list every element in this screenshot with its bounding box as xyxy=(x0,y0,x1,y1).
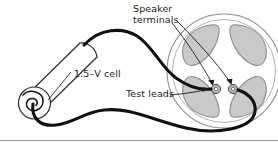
test-leads-label: Test leads xyxy=(126,88,174,99)
speaker-assembly xyxy=(167,14,278,128)
cell-label: 1.5–V cell xyxy=(74,68,121,79)
speaker-terminals-label-line2: terminals xyxy=(133,14,179,25)
circuit-figure: Speaker terminals 1.5–V cell Test leads xyxy=(0,0,278,143)
speaker-terminals-label: Speaker terminals xyxy=(133,3,179,25)
right-terminal-hole xyxy=(231,87,234,90)
speaker-terminals-label-line1: Speaker xyxy=(133,3,179,14)
left-terminal-hole xyxy=(214,87,217,90)
battery-cell xyxy=(12,43,97,126)
